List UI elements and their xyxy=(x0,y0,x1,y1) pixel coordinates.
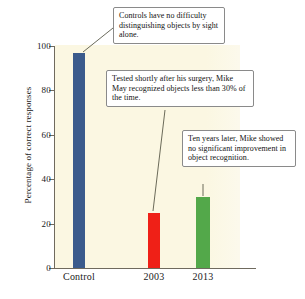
annotation-control: Controls have no difficulty distinguishi… xyxy=(113,7,225,44)
y-tick-label-0: 0 xyxy=(11,263,51,273)
y-axis-line xyxy=(54,46,55,269)
bar-control xyxy=(73,53,85,268)
annotation-2013: Ten years later, Mike showed no signific… xyxy=(182,130,296,167)
y-tick-label-100: 100 xyxy=(11,41,51,51)
y-axis-title: Percentage of correct responses xyxy=(23,60,33,230)
bar-2003 xyxy=(148,213,160,269)
bar-chart: 100 80 60 40 20 0 Percentage of correct … xyxy=(0,0,305,299)
annotation-2003: Tested shortly after his surgery, Mike M… xyxy=(106,70,254,107)
bar-2013 xyxy=(196,197,210,268)
x-tick-label-2013: 2013 xyxy=(173,271,233,282)
x-axis-line xyxy=(54,268,256,269)
x-tick-label-control: Control xyxy=(49,271,109,282)
